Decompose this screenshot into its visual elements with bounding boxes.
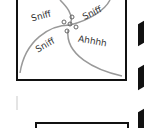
comic-panel-bottom (35, 122, 129, 128)
edge-stripe-2 (138, 64, 144, 91)
panel-drawing (0, 0, 144, 128)
faint-mark (16, 96, 18, 110)
edge-stripe-3 (138, 108, 144, 128)
edge-stripe-1 (138, 20, 144, 47)
